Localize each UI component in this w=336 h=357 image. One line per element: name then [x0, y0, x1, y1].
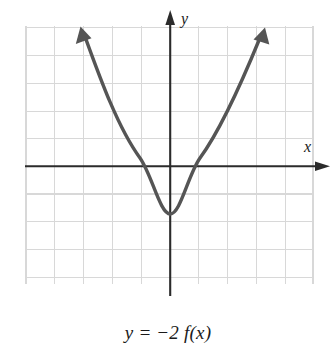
coordinate-plane: x y: [0, 0, 336, 310]
parabola-curve: [76, 27, 269, 215]
graph-figure: x y y = −2 f(x): [0, 0, 336, 357]
x-axis-arrowhead: [315, 161, 330, 171]
y-axis-label: y: [179, 10, 189, 28]
y-axis: [165, 10, 175, 296]
x-axis-label: x: [303, 138, 311, 155]
x-axis: [25, 161, 330, 171]
figure-caption: y = −2 f(x): [0, 322, 336, 344]
y-axis-arrowhead: [165, 10, 175, 25]
